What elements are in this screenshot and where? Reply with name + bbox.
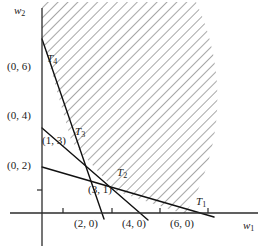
- feasible-region: [42, 2, 217, 213]
- point-label-4-0: (4, 0): [122, 218, 146, 229]
- point-label-0-6: (0, 6): [7, 61, 31, 72]
- tangent-label-T3: T3: [75, 126, 85, 139]
- point-label-0-4: (0, 4): [7, 110, 31, 121]
- tangent-label-T2: T2: [117, 167, 127, 180]
- x-axis-label: w1: [243, 220, 254, 233]
- tangent-label-T4: T4: [47, 53, 57, 66]
- plot-svg: [0, 0, 272, 252]
- y-axis-label: w2: [14, 5, 25, 18]
- tangent-label-T1: T1: [196, 196, 206, 209]
- point-label-3-1: (3, 1): [88, 184, 112, 195]
- figure-canvas: w2 w1 T4 T3 T2 T1 (0, 6) (0, 4) (0, 2) (…: [0, 0, 272, 252]
- point-label-0-2: (0, 2): [7, 160, 31, 171]
- point-label-1-3: (1, 3): [42, 135, 66, 146]
- point-label-2-0: (2, 0): [74, 218, 98, 229]
- point-label-6-0: (6, 0): [170, 218, 194, 229]
